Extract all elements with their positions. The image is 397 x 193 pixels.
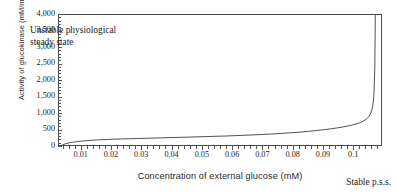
y-axis-tick-text: 1,500: [37, 92, 58, 100]
y-axis-minor-tick-mark: [58, 100, 61, 101]
x-axis-minor-tick-mark: [317, 146, 318, 149]
y-axis-tick-mark: [58, 130, 62, 131]
y-axis-minor-tick-mark: [58, 50, 61, 51]
y-axis-minor-tick-mark: [58, 116, 61, 117]
y-axis-minor-tick-mark: [58, 103, 61, 104]
x-axis-minor-tick-mark: [226, 146, 227, 149]
x-axis-minor-tick-mark: [323, 146, 324, 149]
x-axis-tick-text: 0.09: [316, 151, 330, 159]
y-axis-minor-tick-mark: [58, 73, 61, 74]
x-axis-minor-tick-mark: [159, 146, 160, 149]
x-axis-tick-text: 0.05: [195, 151, 209, 159]
y-axis-tick-mark: [58, 146, 62, 147]
annotation-stable-steady-state: Stable p.s.s.: [346, 176, 391, 188]
x-axis-minor-tick-mark: [256, 146, 257, 149]
x-axis-tick-text: 0.1: [348, 151, 358, 159]
x-axis-minor-tick-mark: [153, 146, 154, 149]
x-axis-minor-tick-mark: [268, 146, 269, 149]
x-axis-minor-tick-mark: [184, 146, 185, 149]
x-axis-minor-tick-mark: [232, 146, 233, 149]
annotation-unstable-steady-state: Unstable physiological steady state: [30, 24, 116, 49]
x-axis-tick-text: 0.08: [286, 151, 300, 159]
x-axis-minor-tick-mark: [99, 146, 100, 149]
y-axis-tick-text: 0: [51, 142, 58, 150]
y-axis-minor-tick-mark: [58, 120, 61, 121]
y-axis-minor-tick-mark: [58, 60, 61, 61]
y-axis-minor-tick-mark: [58, 143, 61, 144]
x-axis-minor-tick-mark: [305, 146, 306, 149]
x-axis-minor-tick-mark: [250, 146, 251, 149]
annotation-unstable-line-1: Unstable physiological: [30, 24, 116, 36]
y-axis-tick-mark: [58, 97, 62, 98]
y-axis-tick-text: 500: [43, 125, 58, 133]
y-axis-tick-mark: [58, 64, 62, 65]
y-axis-title: Activity of glucokinase (mM/min): [17, 0, 26, 116]
x-axis-tick-text: 0.07: [255, 151, 269, 159]
y-axis-minor-tick-mark: [58, 133, 61, 134]
y-axis-minor-tick-mark: [58, 67, 61, 68]
x-axis-minor-tick-mark: [238, 146, 239, 149]
x-axis-minor-tick-mark: [220, 146, 221, 149]
x-axis-minor-tick-mark: [190, 146, 191, 149]
x-axis-minor-tick-mark: [147, 146, 148, 149]
y-axis-minor-tick-mark: [58, 93, 61, 94]
x-axis-minor-tick-mark: [165, 146, 166, 149]
x-axis-tick-text: 0.03: [134, 151, 148, 159]
x-axis-minor-tick-mark: [75, 146, 76, 149]
x-axis-minor-tick-mark: [335, 146, 336, 149]
x-axis-minor-tick-mark: [377, 146, 378, 149]
x-axis-minor-tick-mark: [178, 146, 179, 149]
x-axis-minor-tick-mark: [69, 146, 70, 149]
x-axis-minor-tick-mark: [123, 146, 124, 149]
y-axis-tick-text: 4,000: [37, 10, 58, 18]
x-axis-minor-tick-mark: [341, 146, 342, 149]
x-axis-tick-text: 0.02: [104, 151, 118, 159]
x-axis-minor-tick-mark: [63, 146, 64, 149]
x-axis-minor-tick-mark: [365, 146, 366, 149]
y-axis-minor-tick-mark: [58, 90, 61, 91]
y-axis-minor-tick-mark: [58, 21, 61, 22]
figure-chart-glucokinase-activity: 05001,0001,5002,0002,5003,0003,5004,000 …: [0, 0, 397, 193]
x-axis-minor-tick-mark: [281, 146, 282, 149]
x-axis-minor-tick-mark: [329, 146, 330, 149]
y-axis-tick-mark: [58, 14, 62, 15]
y-axis-minor-tick-mark: [58, 17, 61, 18]
x-axis-minor-tick-mark: [196, 146, 197, 149]
x-axis-minor-tick-mark: [93, 146, 94, 149]
x-axis-tick-text: 0.01: [74, 151, 88, 159]
y-axis-minor-tick-mark: [58, 139, 61, 140]
x-axis-minor-tick-mark: [275, 146, 276, 149]
y-axis-tick-text: 2,500: [37, 59, 58, 67]
y-axis-minor-tick-mark: [58, 83, 61, 84]
y-axis-minor-tick-mark: [58, 106, 61, 107]
x-axis-minor-tick-mark: [311, 146, 312, 149]
x-axis-tick-text: 0.06: [225, 151, 239, 159]
y-axis-minor-tick-mark: [58, 87, 61, 88]
x-axis-minor-tick-mark: [141, 146, 142, 149]
y-axis-minor-tick-mark: [58, 77, 61, 78]
x-axis-title: Concentration of external glucose (mM): [58, 171, 382, 181]
y-axis-tick-text: 2,000: [37, 76, 58, 84]
y-axis-minor-tick-mark: [58, 110, 61, 111]
y-axis-tick-mark: [58, 80, 62, 81]
x-axis-minor-tick-mark: [214, 146, 215, 149]
annotation-unstable-line-2: steady state: [30, 36, 116, 48]
x-axis-minor-tick-mark: [105, 146, 106, 149]
x-axis-minor-tick-mark: [299, 146, 300, 149]
x-axis-tick-text: 0.04: [164, 151, 178, 159]
x-axis-minor-tick-mark: [135, 146, 136, 149]
x-axis-minor-tick-mark: [208, 146, 209, 149]
y-axis-minor-tick-mark: [58, 54, 61, 55]
x-axis-minor-tick-mark: [117, 146, 118, 149]
y-axis-minor-tick-mark: [58, 123, 61, 124]
y-axis-minor-tick-mark: [58, 126, 61, 127]
y-axis-tick-mark: [58, 113, 62, 114]
x-axis-minor-tick-mark: [244, 146, 245, 149]
x-axis-minor-tick-mark: [129, 146, 130, 149]
y-axis-minor-tick-mark: [58, 57, 61, 58]
x-axis-minor-tick-mark: [347, 146, 348, 149]
x-axis-minor-tick-mark: [87, 146, 88, 149]
x-axis-minor-tick-mark: [287, 146, 288, 149]
y-axis-tick-text: 1,000: [37, 109, 58, 117]
y-axis-minor-tick-mark: [58, 70, 61, 71]
